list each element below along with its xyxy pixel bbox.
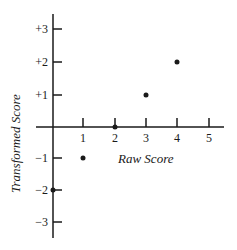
y-axis-title: Transformed Score <box>8 94 24 193</box>
point-0-neg2 <box>51 188 56 193</box>
y-tick-label: +1 <box>22 89 48 101</box>
data-points <box>51 60 180 193</box>
y-tick-label: +2 <box>22 56 48 68</box>
y-ticks <box>53 29 62 222</box>
point-2-0 <box>113 125 118 130</box>
y-tick-label: −3 <box>22 216 48 228</box>
y-tick-label: −2 <box>22 184 48 196</box>
point-3-1 <box>144 93 149 98</box>
plot-area <box>0 0 237 250</box>
y-tick-label: −1 <box>22 152 48 164</box>
x-ticks <box>83 118 209 127</box>
y-tick-label: +3 <box>22 23 48 35</box>
x-tick-label: 3 <box>140 132 152 144</box>
point-4-2 <box>175 60 180 65</box>
x-tick-label: 5 <box>203 132 215 144</box>
x-tick-label: 4 <box>171 132 183 144</box>
x-tick-label: 1 <box>77 132 89 144</box>
x-axis-title: Raw Score <box>118 151 173 167</box>
point-1-neg1 <box>81 156 86 161</box>
x-tick-label: 2 <box>109 132 121 144</box>
